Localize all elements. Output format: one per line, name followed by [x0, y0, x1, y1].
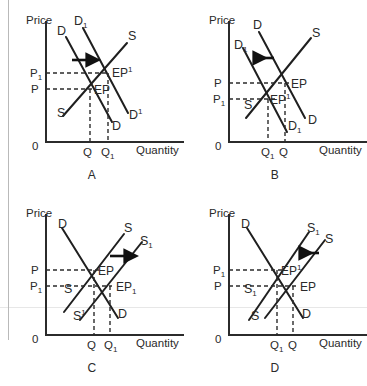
supply-label-top: S [325, 232, 333, 246]
demand-label-top: D [241, 217, 250, 231]
supply-new-label-top: S1 [140, 234, 153, 250]
panel-c-chart: Price Quantity 0 P P1 Q Q1 D S S1 S S1 D… [0, 190, 184, 386]
equilibrium-label-ep: EP [291, 77, 307, 91]
quantity-tick-q: Q [279, 146, 288, 158]
panel-c-caption: C [0, 361, 184, 375]
y-axis-label: Price [26, 14, 52, 26]
x-axis-label: Quantity [319, 337, 362, 349]
panel-c: Price Quantity 0 P P1 Q Q1 D S S1 S S1 D… [0, 190, 184, 383]
demand-new-label-bottom: D1 [129, 107, 143, 122]
price-tick-p: P [31, 83, 39, 95]
supply-new-label-top: S1 [307, 221, 320, 237]
quantity-tick-q1: Q1 [270, 339, 284, 354]
price-tick-p1: P1 [30, 280, 43, 295]
panel-b-caption: B [183, 168, 367, 182]
quantity-tick-q1: Q1 [104, 339, 118, 354]
supply-new-label-left: S1 [244, 282, 257, 298]
supply-label-bottom: S [251, 309, 259, 323]
equilibrium-label-ep1: EP1 [112, 65, 133, 80]
panel-a: Price Quantity 0 P1 P Q Q1 D D1 S S D D1… [0, 0, 184, 193]
supply-label-top: S [312, 26, 320, 40]
panel-d: Price Quantity 0 P1 P Q1 Q D S1 S S1 S D… [183, 190, 367, 383]
origin-label: 0 [32, 140, 38, 152]
quantity-tick-q: Q [83, 146, 92, 158]
origin-label: 0 [215, 140, 221, 152]
y-axis-label: Price [26, 207, 52, 219]
supply-label-left: S [64, 282, 72, 296]
demand-label-bottom: D [302, 307, 311, 321]
price-tick-p: P [31, 264, 39, 276]
equilibrium-label-ep: EP [98, 264, 114, 278]
equilibrium-label-ep: EP [300, 280, 316, 294]
demand-curve-new [243, 48, 287, 132]
x-axis-label: Quantity [136, 144, 179, 156]
panel-d-caption: D [183, 361, 367, 375]
y-axis-label: Price [209, 14, 235, 26]
quantity-tick-q: Q [87, 339, 96, 351]
supply-label-bottom: S [57, 106, 65, 120]
equilibrium-label-ep1: EP1 [281, 263, 302, 278]
quantity-tick-q1: Q1 [261, 146, 275, 161]
price-tick-p1: P1 [30, 67, 43, 82]
demand-label-bottom: D [112, 119, 121, 133]
figure-root: Price Quantity 0 P1 P Q Q1 D D1 S S D D1… [0, 0, 367, 386]
price-tick-p1: P1 [213, 264, 226, 279]
demand-label-bottom: D [118, 307, 127, 321]
equilibrium-label-ep1: EP1 [270, 92, 291, 107]
equilibrium-label-ep: EP [94, 83, 110, 97]
demand-curve-original [66, 37, 112, 122]
quantity-tick-q1: Q1 [101, 146, 115, 161]
demand-label-top: D [57, 24, 66, 38]
price-tick-p: P [214, 280, 222, 292]
panel-a-caption: A [0, 168, 184, 182]
supply-label-top: S [128, 29, 136, 43]
equilibrium-label-ep1: EP1 [116, 280, 137, 296]
origin-label: 0 [215, 333, 221, 345]
x-axis-label: Quantity [136, 337, 179, 349]
x-axis-label: Quantity [319, 144, 362, 156]
demand-label-top: D [253, 18, 262, 32]
panel-b: Price Quantity 0 P P1 Q1 Q D D1 S S D1 D… [183, 0, 367, 193]
demand-new-label-bottom: D1 [288, 119, 302, 135]
panel-a-chart: Price Quantity 0 P1 P Q Q1 D D1 S S D D1… [0, 0, 184, 193]
origin-label: 0 [32, 333, 38, 345]
price-tick-p: P [214, 77, 222, 89]
panel-b-chart: Price Quantity 0 P P1 Q1 Q D D1 S S D1 D… [183, 0, 367, 193]
panel-d-chart: Price Quantity 0 P1 P Q1 Q D S1 S S1 S D… [183, 190, 367, 386]
demand-label-bottom: D [308, 113, 317, 127]
supply-label-bottom: S [244, 98, 252, 112]
demand-new-label-top: D1 [74, 14, 88, 30]
quantity-tick-q: Q [288, 339, 297, 351]
supply-label-top: S [124, 221, 132, 235]
price-tick-p1: P1 [213, 93, 226, 108]
demand-label-top: D [58, 217, 67, 231]
y-axis-label: Price [209, 207, 235, 219]
demand-new-label-top: D1 [234, 38, 248, 54]
supply-new-label-bottom: S1 [73, 308, 86, 323]
